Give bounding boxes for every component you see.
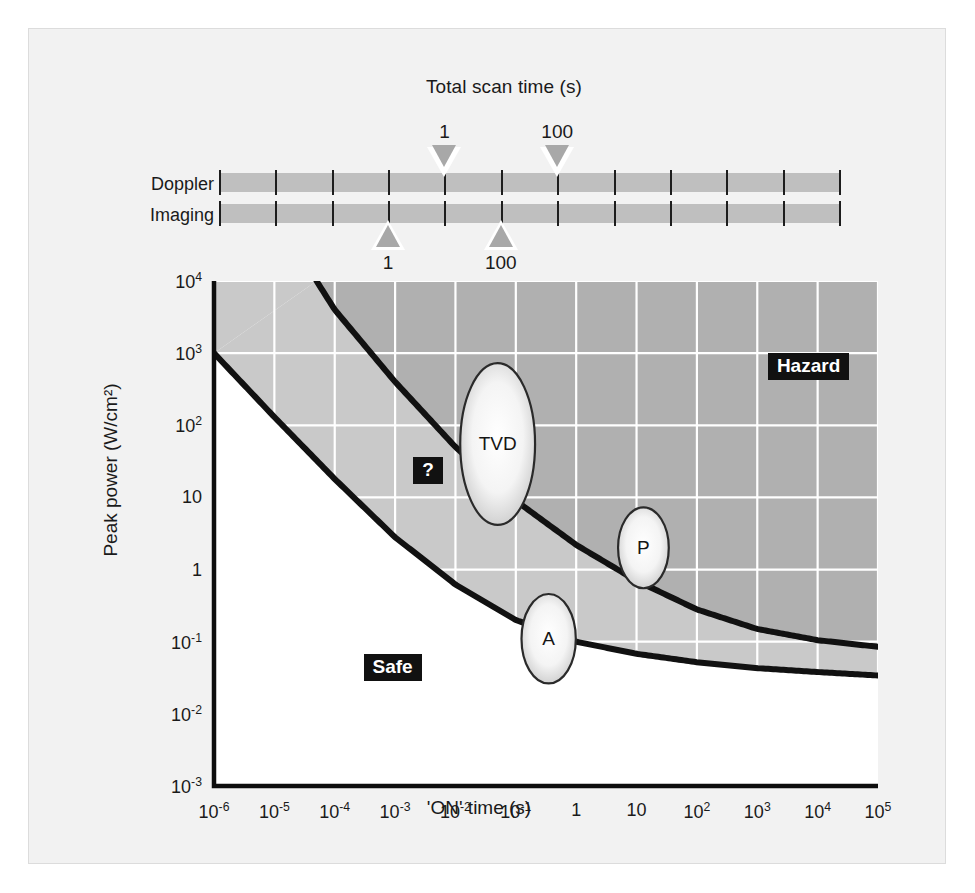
y-tick-label: 10: [142, 487, 202, 508]
region-badge-safe: Safe: [364, 654, 422, 681]
main-chart: Peak power (W/cm²) 'ON' time (s) TVDPASa…: [29, 29, 947, 865]
marker-ellipse-tvd: [460, 363, 535, 525]
y-tick-label: 10-3: [142, 775, 202, 798]
marker-ellipse-p: [618, 507, 669, 588]
figure-panel: Total scan time (s) Doppler1100Imaging11…: [28, 28, 946, 864]
marker-ellipse-a: [521, 594, 575, 683]
y-tick-label: 104: [142, 270, 202, 293]
x-tick-label: 105: [838, 800, 918, 823]
y-tick-label: 1: [142, 559, 202, 580]
y-tick-label: 10-1: [142, 630, 202, 653]
region-badge-unknown: ?: [413, 457, 443, 484]
y-tick-label: 10-2: [142, 702, 202, 725]
y-tick-label: 102: [142, 414, 202, 437]
region-badge-hazard: Hazard: [768, 353, 849, 380]
y-tick-label: 103: [142, 342, 202, 365]
chart-canvas: [29, 29, 947, 865]
